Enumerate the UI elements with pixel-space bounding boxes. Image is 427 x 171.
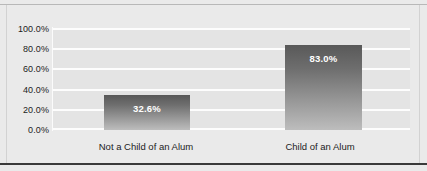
figure-bottom-rule (0, 163, 427, 165)
y-axis-tick-labels: 100.0% 80.0% 60.0% 40.0% 20.0% 0.0% (0, 0, 49, 171)
figure-top-rule (0, 4, 427, 5)
y-tick-label-60: 60.0% (1, 64, 49, 74)
y-tick-label-0: 0.0% (1, 125, 49, 135)
x-category-label-1: Child of an Alum (240, 141, 400, 152)
y-tick-label-40: 40.0% (1, 85, 49, 95)
figure-right-edge (419, 5, 420, 163)
gridline-100 (53, 28, 410, 30)
bar-child-of-an-alum[interactable]: 83.0% (285, 45, 362, 130)
y-tick-label-20: 20.0% (1, 105, 49, 115)
y-tick-label-80: 80.0% (1, 44, 49, 54)
bar-chart-figure: 100.0% 80.0% 60.0% 40.0% 20.0% 0.0% 32.6… (0, 0, 427, 171)
bar-value-label-0: 32.6% (104, 103, 190, 114)
x-category-label-0: Not a Child of an Alum (56, 141, 236, 152)
y-tick-label-100: 100.0% (1, 24, 49, 34)
bar-not-a-child-of-an-alum[interactable]: 32.6% (104, 95, 190, 130)
bar-value-label-1: 83.0% (285, 53, 362, 64)
plot-area: 32.6% 83.0% (53, 28, 410, 130)
